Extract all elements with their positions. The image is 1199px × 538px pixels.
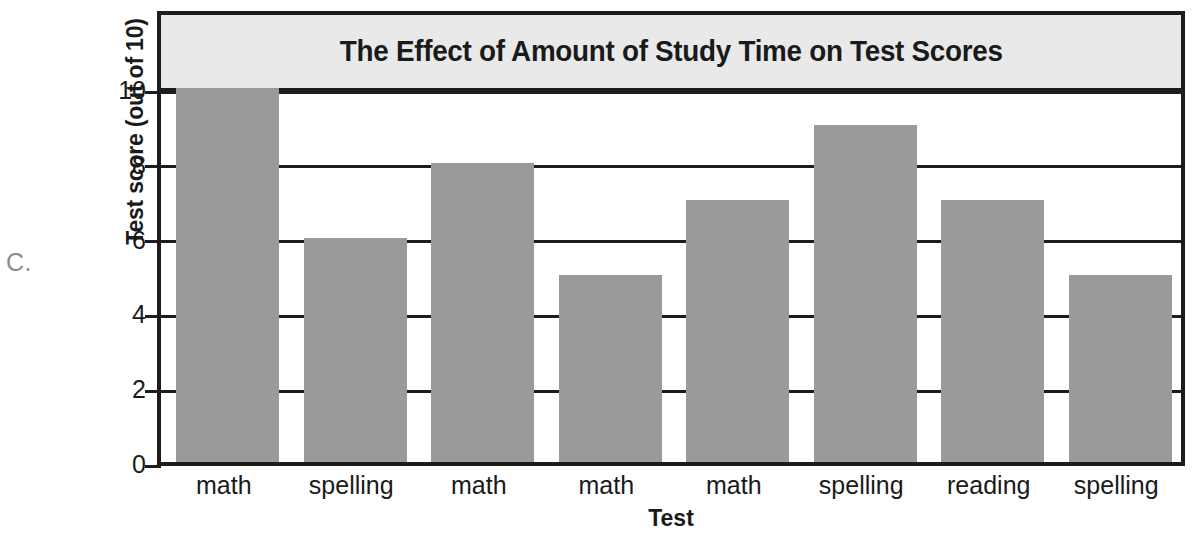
x-axis-tick-label: math (543, 472, 671, 500)
x-axis-tick-label: spelling (288, 472, 416, 500)
y-axis-tick-label: 2 (104, 377, 146, 402)
y-axis-tick-label: 0 (104, 452, 146, 477)
y-axis-tick-label: 6 (104, 228, 146, 253)
y-axis-tick-label: 4 (104, 302, 146, 327)
bar (814, 125, 917, 462)
figure-letter-label: C. (6, 248, 32, 277)
bar (559, 275, 662, 462)
x-axis-tick-labels: mathspellingmathmathmathspellingreadings… (157, 472, 1185, 506)
bar (1069, 275, 1172, 462)
x-axis-tick-label: reading (925, 472, 1053, 500)
bar (304, 238, 407, 462)
bar (941, 200, 1044, 462)
bar (431, 163, 534, 462)
figure-container: C. Test score (out of 10) 0246810 The Ef… (0, 0, 1199, 538)
x-axis-tick-label: math (670, 472, 798, 500)
x-axis-tick-label: math (160, 472, 288, 500)
y-axis-tick-label: 10 (104, 78, 146, 103)
plot-area (161, 92, 1181, 462)
bar (686, 200, 789, 462)
y-axis-tick-label: 8 (104, 153, 146, 178)
chart-title-band: The Effect of Amount of Study Time on Te… (161, 15, 1181, 92)
bar (176, 88, 279, 462)
y-axis-tick-labels: 0246810 (104, 0, 146, 538)
x-axis-tick-label: spelling (1053, 472, 1181, 500)
x-axis-title: Test (157, 505, 1185, 532)
chart-title: The Effect of Amount of Study Time on Te… (340, 35, 1003, 68)
bar-series (161, 92, 1181, 462)
chart-frame: The Effect of Amount of Study Time on Te… (157, 11, 1185, 466)
x-axis-tick-label: math (415, 472, 543, 500)
x-axis-tick-label: spelling (798, 472, 926, 500)
